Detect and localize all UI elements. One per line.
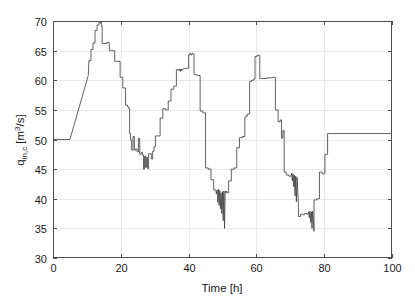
svg-text:qin,c [m3/s]: qin,c [m3/s] [13,114,29,165]
y-tick-label: 30 [35,253,47,265]
y-tick-label: 35 [35,223,47,235]
y-tick-label: 65 [35,46,47,58]
y-axis-tick-labels: 303540455055606570 [35,16,47,265]
plot-frame [54,22,392,258]
y-tick-label: 45 [35,164,47,176]
y-title-unit-pre: [m [14,131,26,147]
x-axis-ticks [54,21,393,258]
y-tick-label: 60 [35,75,47,87]
x-axis-title: Time [h] [201,282,242,294]
y-title-subscript: in,c [20,147,29,159]
x-tick-label: 100 [383,262,401,274]
vertical-gridlines [122,21,325,258]
y-axis-title: qin,c [m3/s] [13,114,29,165]
chart-figure: 303540455055606570 020406080100 Time [h]… [0,0,415,303]
y-tick-label: 40 [35,194,47,206]
x-tick-label: 80 [318,262,330,274]
y-tick-label: 70 [35,16,47,28]
x-tick-label: 60 [250,262,262,274]
y-title-unit-post: /s] [14,114,26,126]
x-tick-label: 0 [50,262,56,274]
x-axis-tick-labels: 020406080100 [50,262,401,274]
chart-svg: 303540455055606570 020406080100 Time [h]… [0,0,415,303]
y-tick-label: 55 [35,105,47,117]
x-tick-label: 20 [115,262,127,274]
x-tick-label: 40 [183,262,195,274]
y-tick-label: 50 [35,135,47,147]
